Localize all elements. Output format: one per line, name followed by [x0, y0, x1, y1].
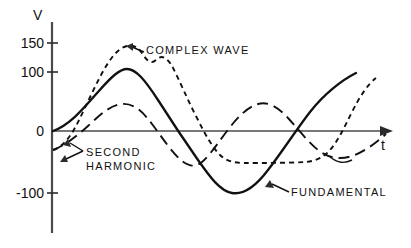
plot-canvas — [0, 0, 411, 248]
annotation-second-harmonic-line1: SECOND — [86, 147, 141, 158]
y-tick-label-minus-100: -100 — [0, 186, 44, 200]
leader-complex-wave — [132, 47, 144, 52]
leader-second-harmonic-upper — [70, 143, 83, 151]
y-tick-label-0: 0 — [4, 124, 44, 138]
waveform-figure: V t 150 100 0 -100 COMPLEX WAVE SECOND H… — [0, 0, 411, 248]
x-axis-label: t — [381, 138, 385, 152]
y-tick-label-150: 150 — [4, 36, 44, 50]
annotation-fundamental: FUNDAMENTAL — [291, 187, 387, 198]
x-axis-arrowhead — [380, 126, 393, 136]
annotation-second-harmonic-line2: HARMONIC — [86, 161, 156, 172]
y-axis-label: V — [33, 8, 42, 22]
leader-arrowhead-complex-wave — [126, 43, 133, 51]
annotation-complex-wave: COMPLEX WAVE — [146, 45, 250, 56]
leader-second-harmonic-lower — [66, 151, 83, 159]
leader-fundamental — [272, 184, 289, 192]
y-tick-label-100: 100 — [4, 65, 44, 79]
